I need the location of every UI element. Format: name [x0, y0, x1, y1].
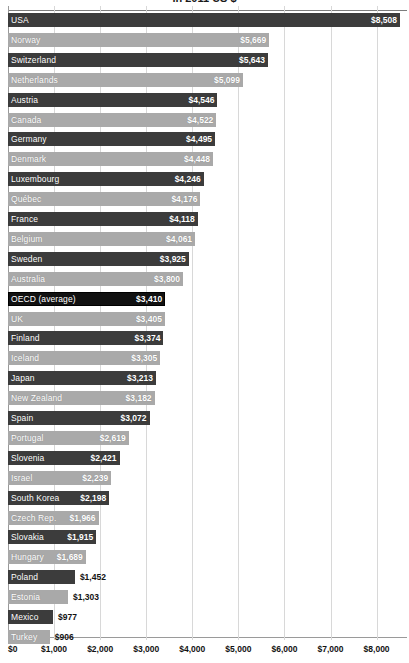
bar-category-label: Belgium	[11, 232, 42, 246]
bar-row: South Korea$2,198	[8, 488, 400, 508]
bar-iceland[interactable]: Iceland$3,305	[8, 351, 160, 365]
bar-category-label: Portugal	[11, 431, 43, 445]
bar-row: Iceland$3,305	[8, 348, 400, 368]
bar-row: Belgium$4,061	[8, 229, 400, 249]
bar-category-label: Netherlands	[11, 73, 58, 87]
x-axis-tick-1000: $1,000	[41, 644, 67, 654]
bar-israel[interactable]: Israel$2,239	[8, 471, 111, 485]
bar-row: France$4,118	[8, 209, 400, 229]
bar-value-label: $3,213	[127, 371, 153, 385]
bar-row: New Zealand$3,182	[8, 388, 400, 408]
x-axis-tick-6000: $6,000	[271, 644, 297, 654]
bar-row: Switzerland$5,643	[8, 50, 400, 70]
bar-hungary[interactable]: Hungary$1,689	[8, 550, 86, 564]
bar-category-label: Slovakia	[11, 530, 44, 544]
bar-slovakia[interactable]: Slovakia$1,915	[8, 530, 96, 544]
bar-value-label: $3,305	[131, 351, 157, 365]
bar-row: Portugal$2,619	[8, 428, 400, 448]
bar-row: Czech Rep.$1,966	[8, 508, 400, 528]
bar-value-label: $4,448	[184, 152, 210, 166]
bar-category-label: OECD (average)	[11, 292, 76, 306]
bar-japan[interactable]: Japan$3,213	[8, 371, 156, 385]
bar-spain[interactable]: Spain$3,072	[8, 411, 150, 425]
bar-value-label: $3,405	[136, 312, 162, 326]
bar-value-label: $8,508	[371, 13, 397, 27]
x-axis-tick-7000: $7,000	[318, 644, 344, 654]
bar-category-label: Israel	[11, 471, 32, 485]
bar-netherlands[interactable]: Netherlands$5,099	[8, 73, 243, 87]
x-axis-tick-5000: $5,000	[225, 644, 251, 654]
bar-value-label: $1,915	[67, 530, 93, 544]
bar-category-label: Austria	[11, 93, 38, 107]
bar-category-label: Poland	[11, 570, 38, 584]
bar-category-label: Iceland	[11, 351, 39, 365]
bar-finland[interactable]: Finland$3,374	[8, 331, 163, 345]
bar-category-label: UK	[11, 312, 23, 326]
bar-estonia[interactable]: Estonia	[8, 590, 68, 604]
bar-category-label: Hungary	[11, 550, 44, 564]
bar-germany[interactable]: Germany$4,495	[8, 132, 215, 146]
bar-value-label: $3,182	[126, 391, 152, 405]
bar-canada[interactable]: Canada$4,522	[8, 113, 216, 127]
x-axis-tick-8000: $8,000	[364, 644, 390, 654]
bar-category-label: Canada	[11, 113, 41, 127]
bar-new-zealand[interactable]: New Zealand$3,182	[8, 391, 155, 405]
bar-row: Norway$5,669	[8, 30, 400, 50]
bar-value-label: $3,374	[134, 331, 160, 345]
bar-austria[interactable]: Austria$4,546	[8, 93, 217, 107]
bar-value-label: $3,800	[154, 272, 180, 286]
bar-row: Japan$3,213	[8, 368, 400, 388]
x-axis-tick-2000: $2,000	[87, 644, 113, 654]
bar-category-label: Japan	[11, 371, 35, 385]
x-axis: $0$1,000$2,000$3,000$4,000$5,000$6,000$7…	[0, 640, 409, 663]
bar-row: Germany$4,495	[8, 129, 400, 149]
bar-category-label: Germany	[11, 132, 47, 146]
bar-category-label: France	[11, 212, 38, 226]
bar-qu-bec[interactable]: Québec$4,176	[8, 192, 200, 206]
bar-category-label: USA	[11, 13, 29, 27]
bar-row: Israel$2,239	[8, 468, 400, 488]
bar-switzerland[interactable]: Switzerland$5,643	[8, 53, 268, 67]
bar-mexico[interactable]: Mexico	[8, 610, 53, 624]
bar-belgium[interactable]: Belgium$4,061	[8, 232, 195, 246]
bar-france[interactable]: France$4,118	[8, 212, 198, 226]
bar-slovenia[interactable]: Slovenia$2,421	[8, 451, 120, 465]
bar-category-label: Québec	[11, 192, 41, 206]
bar-row: Finland$3,374	[8, 328, 400, 348]
bar-australia[interactable]: Australia$3,800	[8, 272, 183, 286]
bar-row: Slovakia$1,915	[8, 527, 400, 547]
bar-value-label: $3,925	[160, 252, 186, 266]
bar-value-label: $1,689	[57, 550, 83, 564]
bar-category-label: Czech Rep.	[11, 511, 56, 525]
chart-plot-area: USA$8,508Norway$5,669Switzerland$5,643Ne…	[0, 6, 409, 640]
bar-row: UK$3,405	[8, 309, 400, 329]
chart-title: in 2011 US $	[0, 0, 409, 5]
bar-category-label: Slovenia	[11, 451, 44, 465]
bar-south-korea[interactable]: South Korea$2,198	[8, 491, 109, 505]
bar-portugal[interactable]: Portugal$2,619	[8, 431, 129, 445]
bar-value-label: $1,452	[80, 570, 106, 584]
chart-title-text: in 2011 US $	[172, 0, 236, 2]
bar-value-label: $5,669	[240, 33, 266, 47]
bar-uk[interactable]: UK$3,405	[8, 312, 165, 326]
bar-luxembourg[interactable]: Luxembourg$4,246	[8, 172, 204, 186]
x-axis-tick-3000: $3,000	[133, 644, 159, 654]
bar-row: Spain$3,072	[8, 408, 400, 428]
bar-denmark[interactable]: Denmark$4,448	[8, 152, 213, 166]
bar-row: Luxembourg$4,246	[8, 169, 400, 189]
bar-row: Denmark$4,448	[8, 149, 400, 169]
bar-usa[interactable]: USA$8,508	[8, 13, 400, 27]
bar-row: Poland$1,452	[8, 567, 400, 587]
bar-value-label: $2,619	[100, 431, 126, 445]
bar-czech-rep[interactable]: Czech Rep.$1,966	[8, 511, 99, 525]
bar-sweden[interactable]: Sweden$3,925	[8, 252, 189, 266]
bar-value-label: $4,546	[188, 93, 214, 107]
bar-row: Netherlands$5,099	[8, 70, 400, 90]
bar-value-label: $2,198	[80, 491, 106, 505]
bar-category-label: South Korea	[11, 491, 59, 505]
bar-row: USA$8,508	[8, 10, 400, 30]
bar-poland[interactable]: Poland	[8, 570, 75, 584]
bar-category-label: Spain	[11, 411, 33, 425]
bar-oecd-average[interactable]: OECD (average)$3,410	[8, 292, 165, 306]
bar-norway[interactable]: Norway$5,669	[8, 33, 269, 47]
